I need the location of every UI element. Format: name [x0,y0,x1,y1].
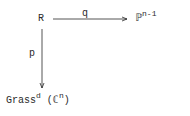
node-projective-space: ℙn-1 [136,14,156,24]
projective-exponent: n-1 [142,9,156,18]
grass-dimension: d [36,91,41,100]
arrow-q-label: q [82,9,88,19]
grass-close-paren: ) [64,95,70,106]
node-R-label: R [38,13,44,24]
grass-base: Grass [6,95,36,106]
node-grassmannian: Grassd (ℂn) [6,96,70,106]
arrow-p-label: p [29,49,35,59]
complex-exponent: n [59,91,64,100]
complex-symbol: ℂ [53,95,59,106]
node-R: R [38,14,44,24]
grass-open-paren: ( [41,95,53,106]
